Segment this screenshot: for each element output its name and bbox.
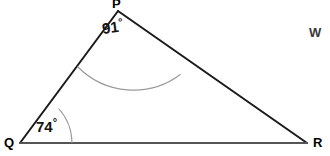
side-PR bbox=[118, 11, 307, 143]
vertex-label-P: P bbox=[112, 0, 121, 10]
vertex-label-Q: Q bbox=[4, 136, 14, 149]
degree-symbol-Q: ° bbox=[53, 116, 57, 128]
diagram-canvas: P Q R 91° 74° W bbox=[0, 0, 330, 156]
angle-arc-P bbox=[78, 67, 181, 91]
angle-arc-Q bbox=[59, 109, 72, 144]
stray-letter-w: W bbox=[309, 26, 321, 39]
angle-measure-P: 91° bbox=[101, 16, 124, 35]
angle-measure-P-value: 91 bbox=[101, 18, 120, 37]
angle-measure-Q-value: 74 bbox=[36, 118, 53, 135]
angle-measure-Q: 74° bbox=[36, 117, 57, 134]
vertex-label-R: R bbox=[313, 136, 322, 149]
